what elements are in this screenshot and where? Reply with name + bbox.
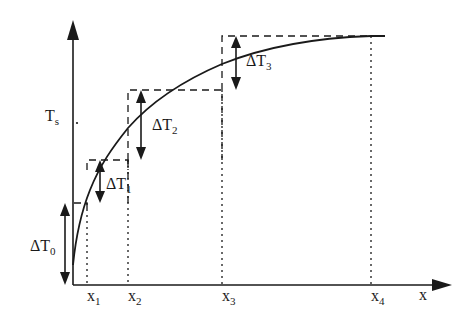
y-axis-arrow-icon — [67, 20, 79, 40]
temperature-curve — [73, 36, 385, 265]
delta-t1-label: ΔT1 — [106, 176, 132, 195]
x-tick-label-1: x1 — [87, 288, 101, 307]
delta-t1-arrow-icon — [95, 160, 105, 203]
axis-dot — [76, 122, 78, 124]
x-axis-arrow-icon — [432, 279, 452, 291]
delta-t0-label: ΔT0 — [30, 238, 56, 257]
x-tick-guides — [87, 36, 371, 285]
delta-t0-arrow-icon — [60, 203, 70, 285]
y-axis-label: Ts — [45, 108, 59, 127]
delta-t3-label: ΔT3 — [246, 53, 272, 72]
x-axis-label: x — [419, 287, 427, 303]
x-tick-label-3: x3 — [222, 288, 236, 307]
delta-t2-label: ΔT2 — [152, 117, 178, 136]
delta-arrows — [60, 36, 241, 285]
delta-t2-arrow-icon — [136, 90, 146, 160]
diagram-graphic — [0, 0, 475, 329]
x-tick-label-2: x2 — [128, 288, 142, 307]
y-axis — [67, 20, 79, 285]
delta-t3-arrow-icon — [231, 36, 241, 90]
diagram-canvas: Ts x x1 x2 x3 x4 ΔT0 ΔT1 ΔT2 ΔT3 — [0, 0, 475, 329]
x-tick-label-4: x4 — [371, 288, 385, 307]
